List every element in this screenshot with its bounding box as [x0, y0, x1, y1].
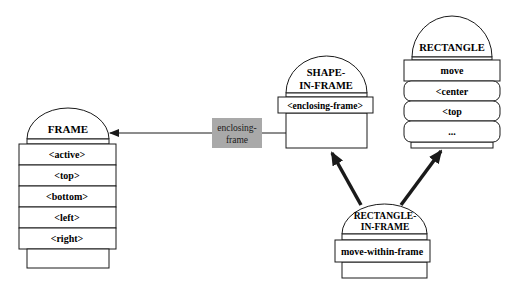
shape-in-frame-title-line2: IN-FRAME: [299, 80, 353, 91]
edge-rectangle-in-frame-to-shape-in-frame: [332, 153, 361, 205]
edge-shape-in-frame-to-frame: enclosing- frame: [110, 118, 286, 148]
frame-slot-top: <top>: [54, 170, 80, 181]
node-rectangle: RECTANGLE move <center <top ...: [404, 16, 500, 148]
rectangle-slot-ellipsis: ...: [448, 126, 456, 137]
edge-label-line2: frame: [226, 135, 248, 145]
frame-base: [27, 249, 109, 268]
rectangle-base: [411, 142, 493, 148]
frame-slot-active: <active>: [49, 149, 86, 160]
node-shape-in-frame: SHAPE- IN-FRAME <enclosing-frame>: [278, 56, 373, 148]
shape-in-frame-base: [286, 113, 367, 148]
rectangle-in-frame-slot-move-within-frame: move-within-frame: [341, 246, 424, 257]
frame-title: FRAME: [48, 123, 88, 135]
edge-arrow-thick: [332, 153, 361, 205]
edge-label-line1: enclosing-: [217, 123, 257, 133]
edge-rectangle-in-frame-to-rectangle: [401, 151, 441, 205]
frame-slot-bottom: <bottom>: [46, 191, 88, 202]
node-rectangle-in-frame: RECTANGLE- IN-FRAME move-within-frame: [335, 204, 430, 278]
rectangle-in-frame-base: [342, 262, 427, 278]
rectangle-in-frame-title-line1: RECTANGLE-: [354, 211, 417, 221]
rectangle-slot-center: <center: [436, 86, 469, 97]
rectangle-title: RECTANGLE: [419, 42, 485, 53]
frame-band: [27, 139, 109, 144]
rectangle-slot-move: move: [441, 65, 464, 76]
shape-in-frame-band: [286, 93, 367, 97]
diagram-canvas: FRAME <active> <top> <bottom> <left> <ri…: [0, 0, 513, 294]
edge-arrow-thick: [401, 151, 441, 205]
shape-in-frame-slot-enclosing-frame: <enclosing-frame>: [287, 101, 363, 111]
rectangle-in-frame-band: [342, 234, 427, 240]
shape-in-frame-title-line1: SHAPE-: [307, 67, 346, 78]
frame-slot-left: <left>: [54, 212, 80, 223]
frame-slot-right: <right>: [51, 233, 84, 244]
rectangle-slot-top: <top: [442, 106, 462, 117]
rectangle-in-frame-title-line2: IN-FRAME: [361, 222, 410, 232]
node-frame: FRAME <active> <top> <bottom> <left> <ri…: [19, 108, 116, 268]
